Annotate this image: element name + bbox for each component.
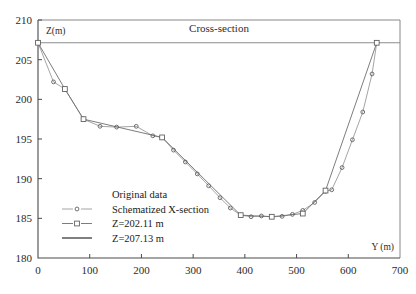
plot-axes [38, 20, 400, 258]
y-axis-tick-label: 210 [16, 14, 33, 26]
cross-section-chart-figure: 1801851901952002052100100200300400500600… [0, 0, 416, 294]
data-point-schematized [62, 87, 67, 92]
legend-circle-marker-icon [75, 207, 79, 211]
data-point-schematized [323, 188, 328, 193]
x-axis-tick-label: 100 [81, 264, 98, 276]
y-axis-tick-label: 200 [16, 93, 33, 105]
data-point-schematized [160, 135, 165, 140]
x-axis-tick-label: 300 [185, 264, 202, 276]
y-axis-tick-label: 195 [16, 133, 33, 145]
legend-label-2: Z=202.11 m [112, 218, 164, 229]
plot-frame [38, 20, 400, 258]
data-point-schematized [238, 213, 243, 218]
x-axis-title: Y (m) [371, 242, 394, 253]
legend-label-0: Original data [112, 189, 167, 200]
x-axis-tick-label: 600 [340, 264, 357, 276]
data-point-schematized [269, 214, 274, 219]
y-axis-tick-label: 180 [16, 252, 33, 264]
x-axis-tick-label: 400 [237, 264, 254, 276]
chart-canvas: 1801851901952002052100100200300400500600… [0, 0, 416, 294]
legend-square-marker-icon [75, 221, 80, 226]
x-axis-tick-label: 200 [133, 264, 150, 276]
x-axis-tick-label: 700 [392, 264, 409, 276]
y-axis-tick-label: 190 [16, 173, 33, 185]
y-axis-tick-label: 185 [16, 212, 33, 224]
data-point-schematized [81, 117, 86, 122]
x-axis-tick-label: 0 [35, 264, 41, 276]
x-axis-tick-label: 500 [288, 264, 305, 276]
y-axis-tick-label: 205 [16, 54, 33, 66]
data-point-schematized [374, 40, 379, 45]
legend-label-1: Schematized X-section [112, 204, 210, 215]
y-axis-title: Z(m) [46, 26, 66, 37]
chart-title: Cross-section [189, 22, 249, 34]
legend-label-3: Z=207.13 m [112, 233, 164, 244]
data-point-schematized [300, 211, 305, 216]
data-point-schematized [36, 40, 41, 45]
